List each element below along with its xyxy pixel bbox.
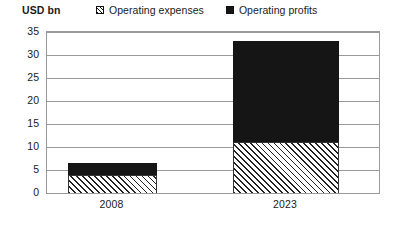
legend-label-operating-profits: Operating profits (239, 4, 317, 16)
y-axis-tick-label: 5 (13, 164, 39, 175)
legend-item-operating-expenses[interactable]: Operating expenses (96, 4, 204, 16)
bar-2023[interactable] (233, 32, 339, 193)
y-axis-tick-label: 10 (13, 141, 39, 152)
chart-figure: USD bn Operating expenses Operating prof… (0, 0, 393, 225)
x-axis-tick-label-2008: 2008 (67, 198, 156, 210)
legend-swatch-filled-square-icon (226, 6, 234, 14)
y-axis-tick-label: 25 (13, 72, 39, 83)
bar-2008[interactable] (68, 32, 157, 193)
chart-legend: Operating expenses Operating profits (96, 4, 317, 16)
bar-segment-operating-expenses-2008[interactable] (68, 175, 157, 193)
bar-segment-operating-expenses-2023[interactable] (233, 142, 339, 193)
legend-label-operating-expenses: Operating expenses (109, 4, 204, 16)
x-axis-tick-label-2023: 2023 (232, 198, 338, 210)
y-axis-tick-label: 30 (13, 49, 39, 60)
y-axis-tick-label: 0 (13, 187, 39, 198)
y-axis-tick-label: 35 (13, 26, 39, 37)
bar-segment-operating-profits-2023[interactable] (233, 41, 339, 142)
y-axis-tick-label: 20 (13, 95, 39, 106)
plot-area (46, 31, 380, 194)
legend-swatch-hatched-square-icon (96, 6, 104, 14)
bar-segment-operating-profits-2008[interactable] (68, 163, 157, 175)
y-axis-tick-label: 15 (13, 118, 39, 129)
y-axis-unit-label: USD bn (22, 4, 61, 16)
legend-item-operating-profits[interactable]: Operating profits (226, 4, 317, 16)
